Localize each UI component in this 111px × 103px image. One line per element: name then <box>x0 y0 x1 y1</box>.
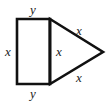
geometry-figure: y x y x x x <box>0 0 111 103</box>
label-rectangle-bottom-y: y <box>30 87 36 100</box>
label-triangle-upper-x: x <box>76 24 82 37</box>
label-rectangle-top-y: y <box>30 3 36 16</box>
label-rectangle-left-x: x <box>5 45 11 58</box>
rectangle-shape <box>17 19 50 84</box>
label-shared-edge-x: x <box>56 45 62 58</box>
label-triangle-lower-x: x <box>76 71 82 84</box>
